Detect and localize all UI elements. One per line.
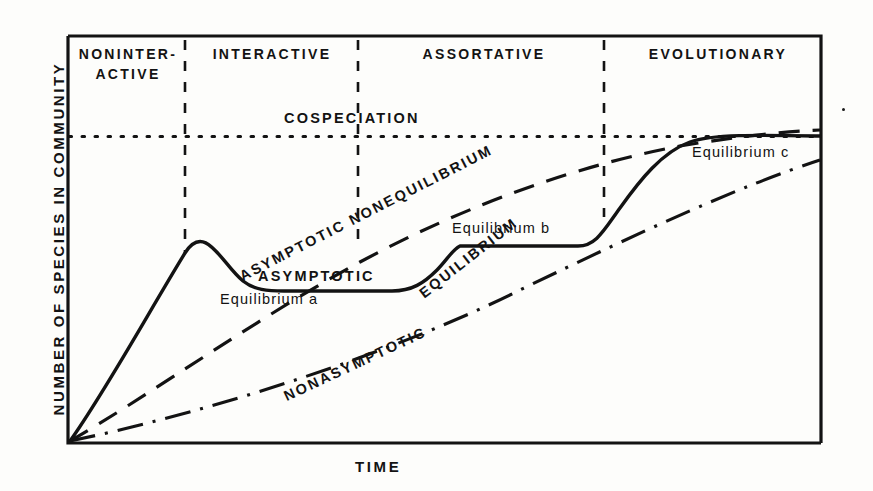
equilibrium-b-label: Equilibrium b — [452, 220, 550, 236]
y-axis-title: NUMBER OF SPECIES IN COMMUNITY — [50, 29, 67, 449]
plot-frame — [68, 36, 821, 443]
phase-label-evolutionary: EVOLUTIONARY — [620, 44, 816, 64]
asymptotic-label: ASYMPTOTIC — [258, 268, 375, 284]
equilibrium-a-label: Equilibrium a — [220, 291, 318, 307]
nonasymptotic-curve — [70, 160, 820, 441]
scan-speck — [842, 108, 845, 111]
phase-label-interactive: INTERACTIVE — [196, 44, 348, 64]
phase-label-noninteractive: NONINTER- ACTIVE — [78, 44, 178, 85]
x-axis-title: TIME — [355, 458, 401, 475]
phase-label-assortative: ASSORTATIVE — [378, 44, 590, 64]
cospeciation-label: COSPECIATION — [284, 110, 420, 126]
figure-container: NUMBER OF SPECIES IN COMMUNITY TIME NONI… — [0, 0, 873, 491]
equilibrium-c-label: Equilibrium c — [692, 144, 789, 160]
